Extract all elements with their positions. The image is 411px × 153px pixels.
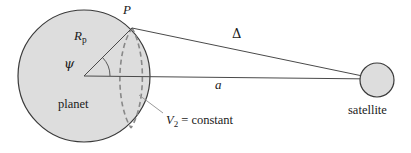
satellite-label: satellite <box>348 104 387 117</box>
semi-major-axis-label: a <box>215 78 222 91</box>
equipotential-label: V2 = constant <box>166 114 233 129</box>
delta-separation-line <box>132 28 377 79</box>
satellite-circle <box>360 63 394 97</box>
radius-subscript: p <box>82 35 87 45</box>
planet-radius-label: Rp <box>74 29 87 45</box>
equipotential-symbol: V <box>166 113 174 127</box>
delta-separation-label: Δ <box>232 27 241 40</box>
equipotential-rest: = constant <box>178 113 233 127</box>
point-p-label: P <box>123 3 131 16</box>
planet-label: planet <box>58 98 89 111</box>
angle-psi-label: ψ <box>64 57 74 70</box>
diagram-figure: P Rp ψ planet V2 = constant Δ a satellit… <box>0 0 411 153</box>
radius-symbol: R <box>74 28 82 43</box>
diagram-canvas <box>0 0 411 153</box>
